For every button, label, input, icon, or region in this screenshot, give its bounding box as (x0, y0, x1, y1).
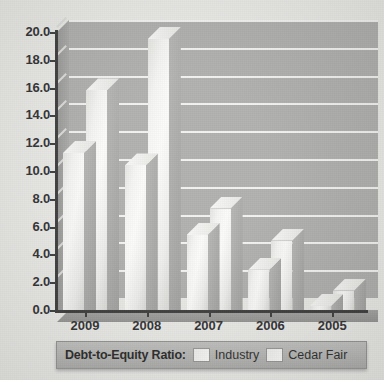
x-axis-label-2006: 2006 (240, 318, 300, 333)
y-axis-label: 10.0 (4, 163, 50, 178)
legend-title: Debt-to-Equity Ratio: (65, 348, 186, 362)
x-axis-line (55, 310, 368, 313)
x-axis-label-2008: 2008 (117, 318, 177, 333)
x-axis-tick (85, 310, 87, 317)
legend-item-industry[interactable]: Industry (193, 348, 259, 362)
bar-industry-2007 (187, 235, 208, 310)
y-axis-label: 14.0 (4, 107, 50, 122)
debt-to-equity-bar-chart: 0.02.04.06.08.010.012.014.016.018.020.0 … (0, 0, 384, 380)
x-axis-label-2005: 2005 (302, 318, 362, 333)
x-axis-tick (147, 310, 149, 317)
legend-item-cedar-fair[interactable]: Cedar Fair (266, 348, 347, 362)
bar-industry-2006 (248, 270, 269, 310)
legend-swatch-cedar-fair (266, 348, 283, 362)
bar-face (248, 270, 269, 310)
y-axis-label: 0.0 (4, 302, 50, 317)
bar-side (107, 78, 119, 310)
gridline (69, 48, 378, 50)
plot-area (57, 32, 366, 310)
bar-side (169, 27, 181, 310)
bar-face (63, 153, 84, 310)
y-axis-label: 12.0 (4, 135, 50, 150)
bar-industry-2009 (63, 153, 84, 310)
chart-legend: Debt-to-Equity Ratio: Industry Cedar Fai… (56, 341, 367, 369)
y-axis-tick (50, 254, 58, 256)
bar-side (84, 141, 96, 310)
x-axis-tick (332, 310, 334, 317)
y-axis-label: 4.0 (4, 246, 50, 261)
y-axis-label: 2.0 (4, 274, 50, 289)
y-axis-label: 6.0 (4, 219, 50, 234)
bar-industry-2008 (125, 165, 146, 310)
y-axis-label: 16.0 (4, 80, 50, 95)
x-axis-label-2007: 2007 (179, 318, 239, 333)
legend-label-cedar-fair: Cedar Fair (288, 348, 347, 362)
bar-side (208, 223, 220, 310)
y-axis-tick (50, 32, 58, 34)
legend-swatch-industry (193, 348, 210, 362)
y-axis-label: 18.0 (4, 52, 50, 67)
y-axis-label: 20.0 (4, 24, 50, 39)
y-axis-tick (50, 282, 58, 284)
gridline (69, 76, 378, 78)
y-axis-tick (50, 88, 58, 90)
y-axis-labels: 0.02.04.06.08.010.012.014.016.018.020.0 (0, 0, 50, 380)
x-axis-label-2009: 2009 (55, 318, 115, 333)
bar-industry-2005 (310, 306, 331, 310)
y-axis-tick (50, 143, 58, 145)
bar-side (292, 229, 304, 311)
y-axis-tick (50, 115, 58, 117)
legend-label-industry: Industry (215, 348, 259, 362)
bar-face (125, 165, 146, 310)
y-axis-tick (50, 60, 58, 62)
bar-face (187, 235, 208, 310)
y-axis-tick (50, 199, 58, 201)
bar-side (231, 197, 243, 310)
x-axis-tick (270, 310, 272, 317)
y-axis-tick (50, 227, 58, 229)
gridline (69, 20, 378, 22)
y-axis-tick (50, 171, 58, 173)
x-axis-tick (209, 310, 211, 317)
bar-side (146, 153, 158, 310)
bar-face (310, 306, 331, 310)
y-axis-label: 8.0 (4, 191, 50, 206)
